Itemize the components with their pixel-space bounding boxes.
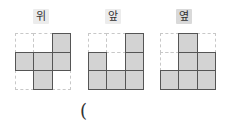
side-view-grid — [160, 33, 215, 89]
filled-square — [33, 70, 52, 90]
filled-square — [125, 33, 144, 53]
filled-square — [197, 70, 216, 90]
empty-square — [106, 33, 125, 53]
view-label-top: 위 — [33, 9, 49, 24]
filled-square — [178, 70, 197, 90]
empty-square — [197, 33, 216, 53]
empty-square — [15, 70, 34, 90]
filled-square — [125, 52, 144, 72]
filled-square — [88, 70, 107, 90]
filled-square — [160, 70, 179, 90]
front-view-grid — [88, 33, 143, 89]
empty-square — [160, 33, 179, 53]
filled-square — [106, 70, 125, 90]
empty-square — [33, 33, 52, 53]
filled-square — [197, 52, 216, 72]
filled-square — [178, 52, 197, 72]
filled-square — [33, 52, 52, 72]
filled-square — [15, 52, 34, 72]
filled-square — [88, 52, 107, 72]
view-label-side: 옆 — [176, 9, 192, 24]
empty-square — [88, 33, 107, 53]
view-label-front: 앞 — [105, 9, 121, 24]
empty-square — [52, 70, 71, 90]
top-view-grid — [15, 33, 70, 89]
filled-square — [52, 52, 71, 72]
answer-parenthesis: ( — [80, 100, 87, 121]
filled-square — [125, 70, 144, 90]
empty-square — [160, 52, 179, 72]
empty-square — [106, 52, 125, 72]
filled-square — [178, 33, 197, 53]
empty-square — [15, 33, 34, 53]
filled-square — [52, 33, 71, 53]
